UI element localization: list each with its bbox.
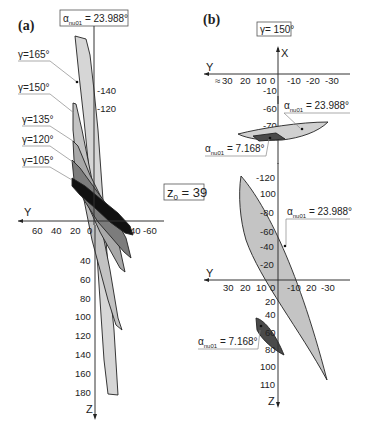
panel-b-label: (b) bbox=[203, 12, 220, 28]
y-tick: 20 bbox=[240, 282, 251, 293]
panel-a-label: (a) bbox=[18, 18, 35, 34]
svg-text:αnu01 = 23.988°: αnu01 = 23.988° bbox=[284, 100, 349, 113]
alpha-label-bottom-upper: αnu01 = 23.988° bbox=[286, 206, 352, 245]
x-tick: -60 bbox=[263, 103, 277, 114]
z-tick: 40 bbox=[265, 309, 276, 320]
svg-text:γ=105°: γ=105° bbox=[22, 155, 54, 166]
alpha-value: = 23.988° bbox=[82, 13, 128, 24]
y-tick: 60 bbox=[32, 225, 43, 236]
y-axis-a-name: Y bbox=[24, 206, 32, 218]
y-tick: 20 bbox=[240, 75, 251, 86]
y-axis-b-top-name: Y bbox=[206, 61, 214, 73]
svg-text:αnu01 = 7.168°: αnu01 = 7.168° bbox=[205, 143, 265, 156]
svg-text:αnu01 = 7.168°: αnu01 = 7.168° bbox=[198, 336, 258, 349]
gamma-box: γ= 150° bbox=[257, 22, 294, 36]
z0-value: = 39 bbox=[178, 185, 207, 200]
z-axis-arrow-icon bbox=[276, 402, 280, 408]
panel-b: (b) γ= 150° X Y ≈ 30 20 10 0 -10 -20 -30… bbox=[198, 12, 352, 408]
y-tick: 20 bbox=[70, 225, 81, 236]
svg-text:γ=120°: γ=120° bbox=[22, 134, 54, 145]
z-tick: 120 bbox=[75, 330, 91, 341]
y-tick: -60 bbox=[143, 225, 157, 236]
y-tick: -10 bbox=[287, 282, 301, 293]
z-tick: -120 bbox=[256, 172, 275, 183]
z-tick: 110 bbox=[260, 379, 275, 390]
panel-a: (a) αnu01 = 23.988° Y 60 40 20 0 40 -60 … bbox=[18, 10, 164, 420]
z-tick: 180 bbox=[75, 387, 91, 398]
y-tick: 40 bbox=[51, 225, 62, 236]
z-tick: 100 bbox=[260, 361, 276, 372]
z-tick: -60 bbox=[260, 226, 274, 237]
y-axis-b-bottom-name: Y bbox=[206, 267, 214, 279]
y-tick: 20 bbox=[306, 282, 317, 293]
z0-box: z0 = 39 bbox=[164, 184, 207, 202]
figure-diagram: (a) αnu01 = 23.988° Y 60 40 20 0 40 -60 … bbox=[0, 0, 368, 436]
z-tick: -140 bbox=[97, 85, 116, 96]
z-tick: 100 bbox=[75, 311, 91, 322]
y-tick: -10 bbox=[287, 75, 301, 86]
panel-a-alpha-box: αnu01 = 23.988° bbox=[60, 10, 128, 26]
svg-text:z0 = 39: z0 = 39 bbox=[167, 185, 207, 202]
svg-text:γ= 150°: γ= 150° bbox=[260, 24, 294, 35]
svg-text:γ=135°: γ=135° bbox=[22, 114, 54, 125]
y-tick: 0 bbox=[270, 282, 275, 293]
z-tick: 80 bbox=[80, 293, 91, 304]
approx-symbol: ≈ bbox=[215, 75, 220, 86]
y-tick: -20 bbox=[306, 75, 320, 86]
svg-text:αnu01 = 23.988°: αnu01 = 23.988° bbox=[287, 206, 352, 219]
z-axis-arrow-icon bbox=[93, 414, 97, 420]
alpha-label-top-lower: αnu01 = 7.168° bbox=[205, 139, 269, 156]
gamma-label-105: γ=105° bbox=[22, 155, 72, 180]
gamma-label-150: γ=150° bbox=[18, 82, 74, 113]
z-tick: -20 bbox=[260, 259, 274, 270]
y-tick: -30 bbox=[321, 282, 335, 293]
z-tick: -120 bbox=[97, 103, 116, 114]
y-axis-arrow-icon bbox=[18, 219, 23, 223]
z-tick: 100 bbox=[260, 188, 276, 199]
z-tick: 40 bbox=[80, 255, 91, 266]
z-tick: -80 bbox=[260, 207, 274, 218]
y-tick: 0 bbox=[87, 225, 92, 236]
z-tick: 160 bbox=[75, 368, 91, 379]
svg-text:γ=165°: γ=165° bbox=[18, 49, 50, 60]
z-tick: 60 bbox=[265, 327, 276, 338]
y-tick: -30 bbox=[325, 75, 339, 86]
z-tick: 20 bbox=[265, 296, 276, 307]
z-axis-a-name: Z bbox=[86, 403, 93, 415]
gamma-label-165: γ=165° bbox=[18, 49, 78, 83]
z-axis-b-name: Z bbox=[268, 395, 275, 407]
x-axis-arrow-icon bbox=[276, 46, 280, 52]
y-tick: 30 bbox=[223, 282, 234, 293]
alpha-subscript: nu01 bbox=[69, 20, 83, 26]
alpha-label-bottom-lower: αnu01 = 7.168° bbox=[198, 330, 260, 349]
y-tick: 30 bbox=[222, 75, 233, 86]
z-tick: 140 bbox=[75, 349, 91, 360]
z-tick: 60 bbox=[80, 274, 91, 285]
svg-text:γ=150°: γ=150° bbox=[18, 82, 50, 93]
z-tick: 80 bbox=[265, 344, 276, 355]
y-tick: 40 bbox=[130, 225, 141, 236]
y-tick: 10 bbox=[256, 282, 267, 293]
x-axis-b-name: X bbox=[281, 47, 289, 59]
x-tick: -10 bbox=[263, 85, 277, 96]
z-tick: -40 bbox=[260, 241, 274, 252]
